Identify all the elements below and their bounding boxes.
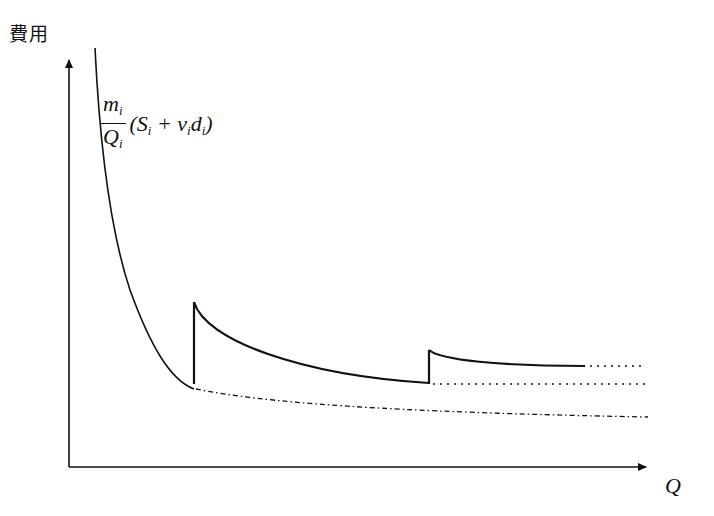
cost-curve-2 (194, 302, 429, 383)
cost-curve-3 (429, 350, 585, 366)
baseline-curve (196, 389, 648, 417)
cost-diagram (0, 0, 714, 516)
cost-curve-1 (95, 48, 194, 389)
